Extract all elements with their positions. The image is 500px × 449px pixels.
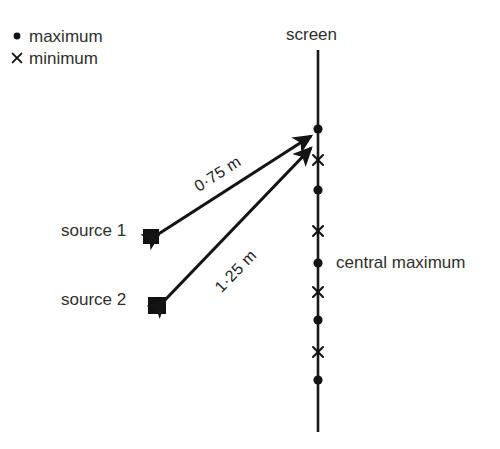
minimum-cross-icon — [13, 54, 22, 63]
legend-label-minimum: minimum — [29, 50, 98, 67]
diagram-canvas: maximum minimum screen source 1 source 2… — [0, 0, 500, 449]
path-1-arrow — [160, 136, 311, 233]
screen-maximum-marker — [313, 124, 322, 133]
central-maximum-label: central maximum — [336, 254, 465, 271]
source-2-marker — [148, 297, 166, 314]
legend-label-maximum: maximum — [29, 28, 103, 45]
screen-central-maximum-marker — [313, 258, 322, 267]
screen-maximum-marker — [313, 375, 322, 384]
source-1-marker — [143, 229, 159, 244]
source-2-label: source 2 — [61, 291, 126, 308]
maximum-dot-icon — [14, 33, 21, 40]
screen-maximum-marker — [313, 185, 322, 194]
screen-label: screen — [286, 26, 337, 43]
screen-maximum-marker — [313, 315, 322, 324]
source-1-label: source 1 — [61, 222, 126, 239]
